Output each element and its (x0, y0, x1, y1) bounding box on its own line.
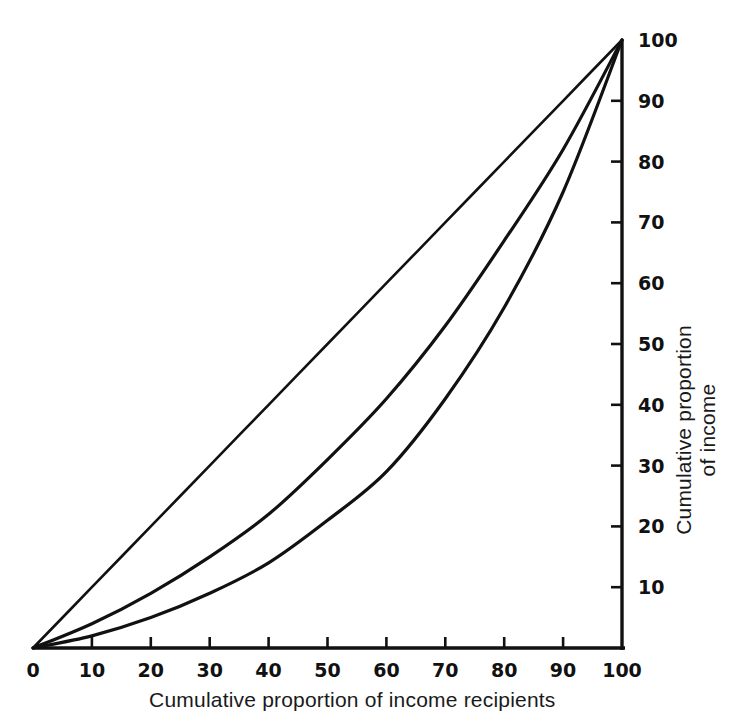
y-tick-label-100: 100 (638, 31, 678, 50)
x-tick-label-70: 70 (432, 661, 458, 680)
y-tick-label-80: 80 (638, 152, 664, 171)
x-tick-label-20: 20 (138, 661, 164, 680)
y-tick-label-10: 10 (638, 578, 664, 597)
lorenz-curve-figure: 0102030405060708090100 10203040506070809… (0, 0, 729, 722)
x-tick-label-10: 10 (79, 661, 105, 680)
chart-canvas (0, 0, 729, 722)
x-tick-label-90: 90 (550, 661, 576, 680)
x-tick-label-40: 40 (255, 661, 281, 680)
x-tick-label-80: 80 (491, 661, 517, 680)
x-tick-label-50: 50 (314, 661, 340, 680)
x-tick-label-60: 60 (373, 661, 399, 680)
y-tick-label-90: 90 (638, 91, 664, 110)
x-axis-title: Cumulative proportion of income recipien… (149, 688, 555, 712)
y-axis-title-line-2: of income (696, 300, 720, 560)
series-line-1 (33, 40, 622, 648)
x-tick-label-100: 100 (602, 661, 642, 680)
x-tick-label-0: 0 (26, 661, 39, 680)
y-tick-label-20: 20 (638, 517, 664, 536)
y-tick-label-60: 60 (638, 274, 664, 293)
y-axis-title-line-1: Cumulative proportion (672, 300, 696, 560)
y-tick-label-50: 50 (638, 335, 664, 354)
y-tick-label-40: 40 (638, 395, 664, 414)
x-tick-label-30: 30 (196, 661, 222, 680)
y-tick-label-70: 70 (638, 213, 664, 232)
y-axis-title: Cumulative proportion of income (672, 300, 719, 560)
curves-group (33, 40, 622, 648)
y-tick-label-30: 30 (638, 456, 664, 475)
axes-group (33, 40, 625, 650)
